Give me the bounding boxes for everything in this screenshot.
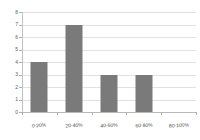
y-tick-label-7: 7: [4, 22, 18, 27]
bar-slot-3: [126, 12, 161, 112]
bar-0-20: [31, 62, 48, 112]
x-tick-mark-3: [126, 112, 127, 115]
x-label-80-100: 80-100%: [158, 121, 198, 129]
x-axis-labels: 0-20% 20-40% 40-60% 60-80% 80-100%: [22, 118, 196, 138]
y-tick-label-3: 3: [4, 72, 18, 77]
bar-40-60: [100, 75, 117, 113]
y-tick-label-5: 5: [4, 47, 18, 52]
y-tick-label-6: 6: [4, 35, 18, 40]
x-tick-mark-4: [161, 112, 162, 115]
y-tick-label-1: 1: [4, 97, 18, 102]
bars-layer: [22, 12, 196, 112]
y-tick-label-8: 8: [4, 10, 18, 15]
x-tick-mark-5: [196, 112, 197, 115]
x-tick-mark-0: [22, 112, 23, 115]
bar-slot-2: [92, 12, 127, 112]
bar-slot-4: [161, 12, 196, 112]
y-tick-label-0: 0: [4, 110, 18, 115]
bar-60-80: [135, 75, 152, 113]
bar-slot-0: [22, 12, 57, 112]
x-tick-mark-1: [57, 112, 58, 115]
x-tick-mark-2: [92, 112, 93, 115]
bar-chart: 8 7 6 5 4 3 2 1 0 0-20% 20-40% 40-60% 60…: [0, 0, 200, 140]
bar-20-40: [66, 25, 83, 113]
bar-slot-1: [57, 12, 92, 112]
y-tick-label-2: 2: [4, 85, 18, 90]
y-tick-label-4: 4: [4, 60, 18, 65]
grid-line-0-baseline: [22, 112, 196, 113]
